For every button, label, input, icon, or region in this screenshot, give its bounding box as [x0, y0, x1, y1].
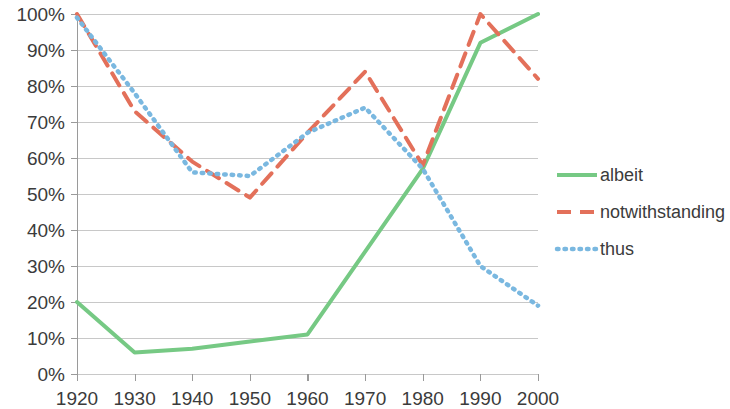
- x-tick-label: 1980: [402, 388, 444, 409]
- x-tick-label: 2000: [517, 388, 559, 409]
- series-line-thus: [77, 18, 538, 306]
- x-tick-label: 1990: [459, 388, 501, 409]
- y-tick-labels: 0%10%20%30%40%50%60%70%80%90%100%: [16, 4, 65, 385]
- x-tick-label: 1940: [171, 388, 213, 409]
- y-tick-label: 60%: [27, 148, 65, 169]
- y-tick-label: 30%: [27, 256, 65, 277]
- series-group: [77, 14, 538, 352]
- y-tick-label: 10%: [27, 328, 65, 349]
- chart-canvas: 0%10%20%30%40%50%60%70%80%90%100% 192019…: [0, 0, 730, 409]
- chart-legend: albeitnotwithstandingthus: [557, 165, 725, 259]
- legend-item-albeit[interactable]: albeit: [557, 165, 643, 185]
- x-tick-label: 1920: [56, 388, 98, 409]
- y-tick-label: 40%: [27, 220, 65, 241]
- legend-label-albeit: albeit: [600, 165, 643, 185]
- series-line-albeit: [77, 14, 538, 352]
- x-axis: [78, 374, 539, 381]
- line-chart: 0%10%20%30%40%50%60%70%80%90%100% 192019…: [0, 0, 730, 409]
- y-tick-label: 80%: [27, 76, 65, 97]
- y-axis: [71, 14, 78, 375]
- y-tick-label: 20%: [27, 292, 65, 313]
- x-tick-label: 1930: [113, 388, 155, 409]
- x-tick-label: 1950: [229, 388, 271, 409]
- legend-label-thus: thus: [600, 239, 634, 259]
- x-tick-label: 1960: [286, 388, 328, 409]
- y-tick-label: 70%: [27, 112, 65, 133]
- y-tick-label: 100%: [16, 4, 65, 25]
- legend-item-thus[interactable]: thus: [557, 239, 634, 259]
- x-tick-label: 1970: [344, 388, 386, 409]
- y-tick-label: 90%: [27, 40, 65, 61]
- x-tick-labels: 192019301940195019601970198019902000: [56, 388, 559, 409]
- legend-label-notwithstanding: notwithstanding: [600, 202, 725, 222]
- y-tick-label: 0%: [38, 364, 66, 385]
- legend-item-notwithstanding[interactable]: notwithstanding: [557, 202, 725, 222]
- y-tick-label: 50%: [27, 184, 65, 205]
